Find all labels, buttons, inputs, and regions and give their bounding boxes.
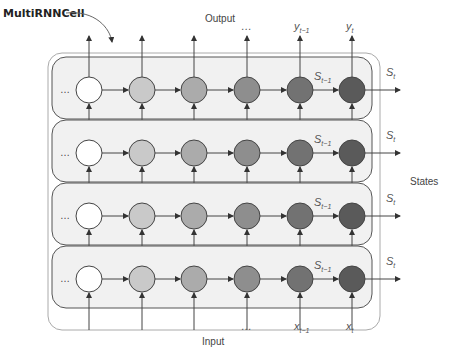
rnn-cell	[234, 266, 260, 292]
rnn-cell	[339, 266, 365, 292]
rnn-cell	[76, 266, 102, 292]
ellipsis-label: …	[60, 147, 70, 158]
rnn-cell	[234, 77, 260, 103]
rnn-cell	[181, 140, 207, 166]
layers-group: …………	[52, 36, 400, 330]
rnn-cell	[181, 77, 207, 103]
output-label: Output	[205, 13, 235, 24]
rnn-cell	[287, 266, 313, 292]
state-curr-label: St	[386, 192, 396, 206]
rnn-cell	[287, 203, 313, 229]
rnn-cell	[181, 203, 207, 229]
input-value-label: xt−1	[293, 320, 310, 334]
state-curr-label: St	[386, 255, 396, 269]
rnn-cell	[339, 203, 365, 229]
ellipsis-label: …	[60, 273, 70, 284]
rnn-cell	[76, 140, 102, 166]
rnn-cell	[129, 77, 155, 103]
title-label: MultiRNNCell	[3, 7, 85, 20]
rnn-cell	[76, 203, 102, 229]
output-value-label: yt	[345, 20, 355, 34]
rnn-cell	[234, 140, 260, 166]
input-label: Input	[202, 336, 224, 347]
ellipsis-label: …	[60, 84, 70, 95]
rnn-cell	[129, 203, 155, 229]
ellipsis-label: …	[60, 210, 70, 221]
rnn-cell	[129, 266, 155, 292]
state-curr-label: St	[386, 129, 396, 143]
rnn-cell	[76, 77, 102, 103]
state-curr-label: St	[386, 66, 396, 80]
rnn-cell	[339, 77, 365, 103]
input-value-label: …	[241, 320, 252, 332]
output-value-label: yt−1	[293, 20, 310, 34]
states-label: States	[410, 176, 438, 187]
rnn-cell	[287, 140, 313, 166]
rnn-cell	[234, 203, 260, 229]
rnn-cell	[339, 140, 365, 166]
rnn-cell	[129, 140, 155, 166]
rnn-cell	[287, 77, 313, 103]
multirnncell-diagram: MultiRNNCell Output Input States ………… St…	[0, 0, 451, 357]
rnn-cell	[181, 266, 207, 292]
output-value-label: …	[241, 20, 252, 32]
input-value-label: xt	[345, 320, 355, 334]
